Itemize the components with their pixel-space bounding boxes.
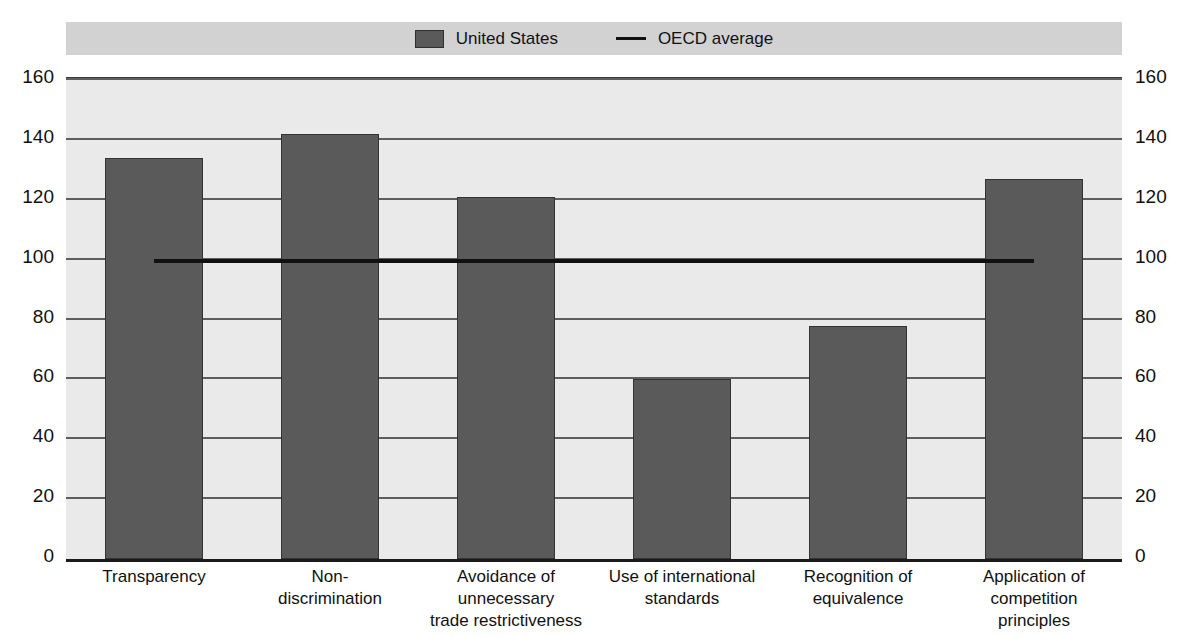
y-axis-tick-label-left: 40 xyxy=(33,426,54,445)
y-axis-tick-label-left: 0 xyxy=(43,546,54,565)
gridline xyxy=(66,318,1122,320)
bar xyxy=(809,326,907,560)
bar xyxy=(633,379,731,559)
y-axis-tick-label-right: 80 xyxy=(1135,307,1156,326)
x-axis-tick-label: Non- discrimination xyxy=(242,566,418,610)
bar xyxy=(457,197,555,559)
y-axis-tick-label-right: 100 xyxy=(1135,247,1167,266)
y-axis-tick-label-left: 120 xyxy=(22,187,54,206)
plot-area xyxy=(66,77,1122,559)
legend-label-oecd-average: OECD average xyxy=(658,30,773,47)
y-axis-tick-label-right: 40 xyxy=(1135,426,1156,445)
legend-bar-swatch-icon xyxy=(415,30,444,48)
y-axis-tick-label-right: 160 xyxy=(1135,67,1167,86)
bar-chart-figure: United States OECD average 1601601401401… xyxy=(0,0,1185,637)
x-axis-tick-label: Avoidance of unnecessary trade restricti… xyxy=(418,566,594,631)
chart-legend: United States OECD average xyxy=(66,22,1122,55)
gridline xyxy=(66,437,1122,439)
x-axis-tick-label: Use of international standards xyxy=(594,566,770,610)
oecd-average-line xyxy=(154,259,1034,263)
bar xyxy=(281,134,379,559)
x-axis-tick-label: Application of competition principles xyxy=(946,566,1122,631)
legend-item-oecd-average: OECD average xyxy=(616,30,773,47)
x-axis-tick-label: Recognition of equivalence xyxy=(770,566,946,610)
y-axis-tick-label-left: 60 xyxy=(33,366,54,385)
gridline xyxy=(66,138,1122,140)
y-axis-tick-label-right: 120 xyxy=(1135,187,1167,206)
y-axis-tick-label-left: 160 xyxy=(22,67,54,86)
gridline xyxy=(66,497,1122,499)
legend-line-swatch-icon xyxy=(616,37,646,40)
y-axis-tick-label-left: 20 xyxy=(33,486,54,505)
plot-inner xyxy=(66,80,1122,559)
gridline xyxy=(66,377,1122,379)
y-axis-tick-label-right: 60 xyxy=(1135,366,1156,385)
gridline xyxy=(66,198,1122,200)
legend-label-united-states: United States xyxy=(456,30,558,47)
legend-item-united-states: United States xyxy=(415,30,558,48)
bar xyxy=(985,179,1083,559)
y-axis-tick-label-left: 80 xyxy=(33,307,54,326)
y-axis-tick-label-left: 100 xyxy=(22,247,54,266)
y-axis-tick-label-right: 0 xyxy=(1135,546,1146,565)
x-axis-tick-label: Transparency xyxy=(66,566,242,588)
x-axis-line xyxy=(66,559,1122,562)
gridline xyxy=(66,78,1122,80)
bar xyxy=(105,158,203,559)
y-axis-tick-label-left: 140 xyxy=(22,127,54,146)
y-axis-tick-label-right: 20 xyxy=(1135,486,1156,505)
y-axis-tick-label-right: 140 xyxy=(1135,127,1167,146)
